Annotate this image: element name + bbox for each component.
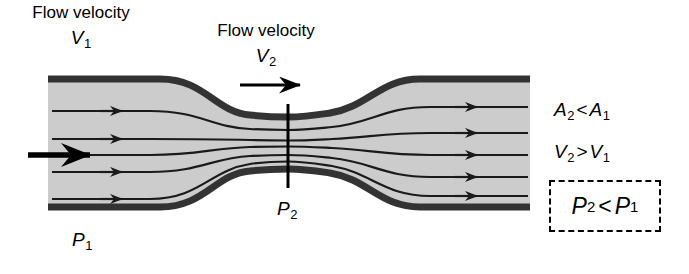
inlet-velocity-letter: V <box>71 27 84 48</box>
pressure-relation-operator: < <box>595 193 614 220</box>
throat-velocity-subscript: 2 <box>268 54 276 69</box>
pressure-relation-box: P2<P1 <box>549 180 661 232</box>
pressure-relation-left-symbol: P <box>572 193 587 220</box>
area-relation-left-symbol: A <box>554 99 567 120</box>
pressure-relation-left-subscript: 2 <box>587 198 595 215</box>
inlet-velocity-subscript: 1 <box>83 36 91 51</box>
inlet-pressure-letter: P <box>72 229 85 250</box>
velocity-relation: V2>V1 <box>554 142 610 164</box>
throat-velocity-symbol: V2 <box>193 46 339 68</box>
inlet-pressure-label: P1 <box>72 230 92 252</box>
pressure-relation-right-symbol: P <box>615 193 630 220</box>
velocity-relation-operator: > <box>574 141 589 162</box>
area-relation-right-symbol: A <box>590 99 603 120</box>
venturi-flow-diagram: Flow velocity V1 Flow velocity V2 P1 P2 … <box>0 0 689 274</box>
area-relation-operator: < <box>574 99 589 120</box>
throat-velocity-letter: V <box>256 45 269 66</box>
throat-flow-velocity-caption: Flow velocity <box>193 22 339 40</box>
inlet-pressure-subscript: 1 <box>85 238 93 253</box>
velocity-relation-right-subscript: 1 <box>602 150 610 165</box>
pressure-relation: P2<P1 <box>551 182 659 230</box>
pressure-relation-right-subscript: 1 <box>630 198 638 215</box>
throat-pressure-label: P2 <box>277 199 297 221</box>
inlet-velocity-symbol: V1 <box>8 28 154 50</box>
throat-pressure-subscript: 2 <box>290 207 298 222</box>
throat-pressure-letter: P <box>277 198 290 219</box>
area-relation-right-subscript: 1 <box>602 108 610 123</box>
area-relation: A2<A1 <box>554 100 610 122</box>
velocity-relation-right-symbol: V <box>590 141 603 162</box>
velocity-relation-left-symbol: V <box>554 141 567 162</box>
inlet-flow-velocity-caption: Flow velocity <box>8 4 154 22</box>
